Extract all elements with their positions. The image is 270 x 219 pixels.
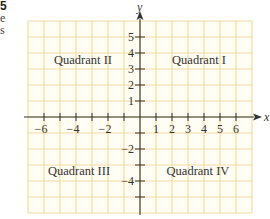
y-tick-label: 2 xyxy=(128,78,134,92)
y-tick-label: 5 xyxy=(128,30,134,44)
x-tick-label: 2 xyxy=(169,122,175,136)
coordinate-plane: −6−4−212345654321−2−4 Quadrant II Quadra… xyxy=(0,0,270,219)
x-tick-label: 1 xyxy=(153,122,159,136)
y-tick-label: −2 xyxy=(121,142,134,156)
x-tick-label: 3 xyxy=(185,122,191,136)
x-tick-label: −4 xyxy=(67,122,80,136)
y-tick-label: 3 xyxy=(128,62,134,76)
y-tick-label: −4 xyxy=(121,174,134,188)
y-tick-label: 4 xyxy=(128,46,134,60)
x-axis-arrow-icon xyxy=(253,114,262,121)
quadrant-ii-label: Quadrant II xyxy=(54,53,112,67)
x-tick-label: 4 xyxy=(201,122,207,136)
x-tick-label: −2 xyxy=(99,122,112,136)
x-tick-label: 6 xyxy=(233,122,239,136)
x-tick-label: −6 xyxy=(35,122,48,136)
y-tick-label: 1 xyxy=(128,94,134,108)
quadrant-iii-label: Quadrant III xyxy=(48,164,110,178)
x-tick-label: 5 xyxy=(217,122,223,136)
quadrant-i-label: Quadrant I xyxy=(172,53,226,67)
quadrant-iv-label: Quadrant IV xyxy=(167,164,230,178)
x-axis-label: x xyxy=(263,110,270,124)
y-axis-label: y xyxy=(136,0,143,14)
